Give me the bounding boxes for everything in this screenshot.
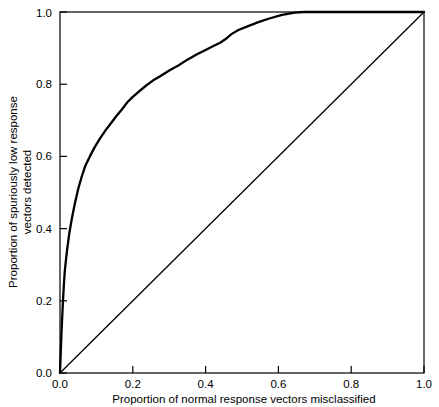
x-tick-marks: [60, 366, 424, 373]
roc-chart-svg: 0.0 0.2 0.4 0.6 0.8 1.0 0.0 0.2 0.4 0.6 …: [0, 0, 439, 407]
y-tick-label-1: 0.2: [36, 295, 52, 307]
y-tick-label-3: 0.6: [36, 150, 52, 162]
y-axis-title-line2: vectors detected: [21, 150, 33, 234]
y-tick-label-0: 0.0: [36, 367, 52, 379]
y-tick-label-5: 1.0: [36, 7, 52, 19]
x-tick-label-3: 0.6: [270, 378, 286, 390]
x-tick-label-4: 0.8: [343, 378, 359, 390]
roc-chart-figure: 0.0 0.2 0.4 0.6 0.8 1.0 0.0 0.2 0.4 0.6 …: [0, 0, 439, 407]
chance-diagonal-line: [60, 12, 424, 373]
x-tick-label-1: 0.2: [125, 378, 141, 390]
y-tick-label-4: 0.8: [36, 78, 52, 90]
y-axis-title-line1: Proportion of spuriously low response: [7, 96, 19, 288]
y-tick-label-2: 0.4: [36, 223, 53, 235]
x-axis-title: Proportion of normal response vectors mi…: [112, 393, 375, 405]
y-tick-labels: 0.0 0.2 0.4 0.6 0.8 1.0: [36, 7, 53, 380]
x-tick-label-2: 0.4: [198, 378, 215, 390]
x-tick-label-5: 1.0: [416, 378, 432, 390]
x-tick-label-0: 0.0: [52, 378, 68, 390]
x-tick-labels: 0.0 0.2 0.4 0.6 0.8 1.0: [52, 378, 432, 390]
